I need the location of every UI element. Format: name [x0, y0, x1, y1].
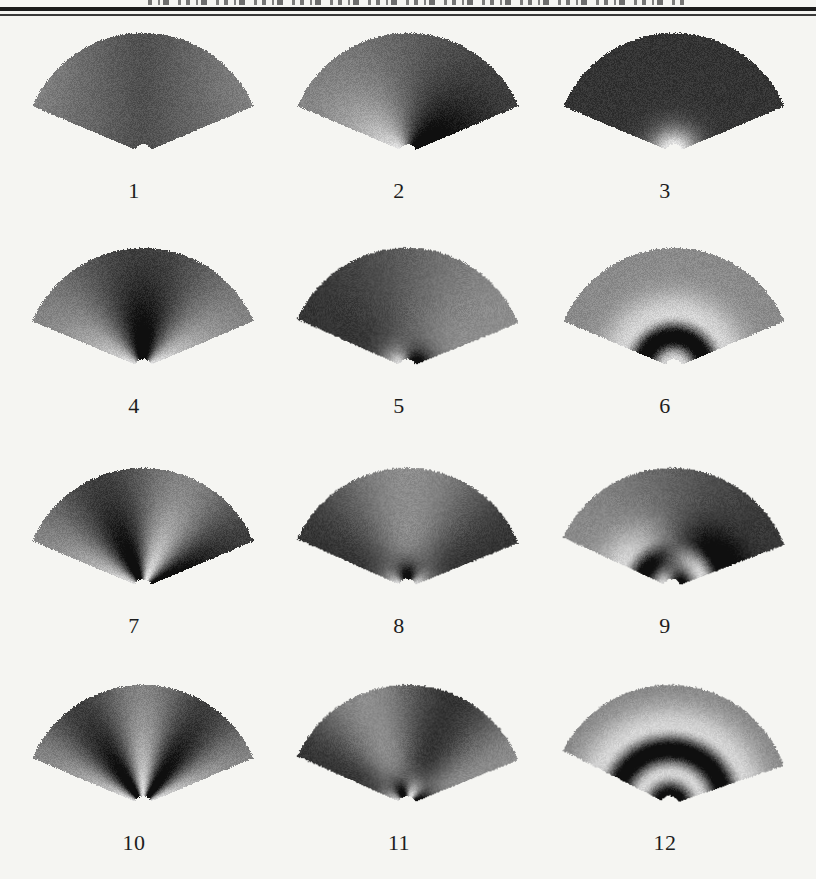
fan-panel: 12: [549, 679, 799, 874]
fan-panel: 6: [549, 242, 799, 437]
fan-sector-image: [18, 462, 268, 597]
fan-sector-image: [18, 679, 268, 814]
panel-number-label: 7: [9, 613, 259, 639]
fan-panel: 8: [283, 462, 533, 657]
fan-sector-image: [283, 27, 533, 162]
fan-sector-image: [282, 460, 534, 599]
fan-panel: 2: [283, 27, 533, 222]
fan-panel: 10: [18, 679, 268, 874]
fan-panel: 1: [18, 27, 268, 222]
panel-number-label: 8: [274, 613, 524, 639]
panel-number-label: 4: [9, 393, 259, 419]
fan-panel: 7: [18, 462, 268, 657]
fan-sector-image: [545, 670, 804, 822]
fan-sector-image: [282, 240, 534, 379]
fan-sector-image: [549, 27, 799, 162]
cropped-running-head-fragments: [148, 0, 688, 5]
panel-number-label: 5: [274, 393, 524, 419]
fan-sector-image: [18, 242, 268, 377]
panel-number-label: 6: [540, 393, 790, 419]
panel-number-label: 10: [9, 830, 259, 856]
panel-number-label: 9: [540, 613, 790, 639]
fan-panel: 3: [549, 27, 799, 222]
fan-panel: 5: [283, 242, 533, 437]
header-rule-top: [0, 7, 816, 11]
fan-sector-image: [282, 677, 534, 816]
header-rule-bottom: [0, 14, 816, 16]
fan-sector-image: [549, 242, 799, 377]
panel-number-label: 11: [274, 830, 524, 856]
fan-panel: 4: [18, 242, 268, 437]
fan-panel: 11: [283, 679, 533, 874]
fan-sector-image: [547, 458, 802, 602]
panel-number-label: 1: [9, 178, 259, 204]
panel-number-label: 3: [540, 178, 790, 204]
fan-sector-image: [18, 27, 268, 162]
fan-panel: 9: [549, 462, 799, 657]
panel-number-label: 12: [540, 830, 790, 856]
panel-number-label: 2: [274, 178, 524, 204]
